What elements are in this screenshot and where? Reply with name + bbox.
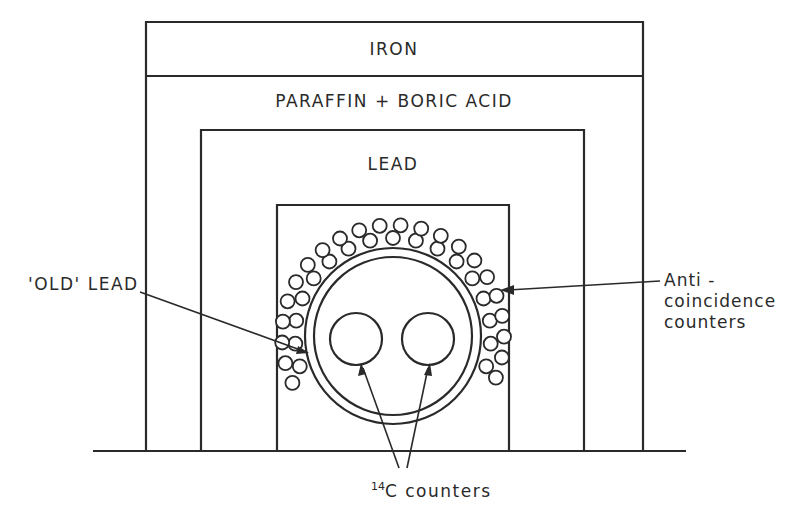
anti-coincidence-counter — [431, 242, 445, 256]
anti-line-1: Anti - — [664, 270, 776, 291]
label-c14-counters: 14C counters — [371, 481, 492, 500]
anti-coincidence-counter — [495, 351, 509, 365]
anti-coincidence-counter — [307, 271, 321, 285]
anti-coincidence-counter — [480, 270, 494, 284]
label-lead: LEAD — [368, 156, 419, 173]
anti-coincidence-counter — [479, 359, 493, 373]
old-lead-ring-inner — [314, 257, 472, 415]
anti-coincidence-counter — [296, 292, 310, 306]
anti-coincidence-counter — [467, 254, 481, 268]
lead-box — [201, 130, 584, 451]
anti-coincidence-counter — [434, 229, 448, 243]
label-iron: IRON — [370, 41, 419, 58]
anti-coincidence-counter — [477, 292, 491, 306]
shielding-diagram: IRON PARAFFIN + BORIC ACID LEAD 'OLD' LE… — [0, 0, 796, 514]
anti-coincidence-counter — [285, 376, 299, 390]
anti-coincidence-counter — [373, 219, 387, 233]
anti-coincidence-counter — [452, 240, 466, 254]
anti-coincidence-counter — [484, 337, 498, 351]
anti-coincidence-counter — [276, 315, 290, 329]
anti-coincidence-counter — [386, 231, 400, 245]
anti-line-3: counters — [664, 312, 776, 333]
diagram-canvas — [0, 0, 796, 514]
c14-leader-left — [363, 368, 399, 468]
anti-coincidence-counter — [316, 243, 330, 257]
anti-coincidence-counter — [450, 255, 464, 269]
anti-coincidence-counter — [490, 289, 504, 303]
anti-coincidence-counter — [278, 356, 292, 370]
anti-coincidence-counter — [394, 218, 408, 232]
c14-counter-left — [330, 313, 382, 365]
anti-coincidence-counter — [495, 309, 509, 323]
anti-line-2: coincidence — [664, 291, 776, 312]
label-anti-coincidence: Anti - coincidence counters — [664, 270, 776, 333]
anti-coincidence-counter — [352, 223, 366, 237]
c14-text: C counters — [385, 481, 492, 501]
anti-coincidence-counter — [301, 258, 315, 272]
anti-coincidence-counter — [414, 222, 428, 236]
anti-coincidence-counter — [497, 330, 511, 344]
anti-coincidence-counter — [289, 314, 303, 328]
anti-coincidence-counter — [489, 371, 503, 385]
c14-superscript: 14 — [371, 480, 385, 493]
anti-coincidence-counter — [363, 234, 377, 248]
anti-coincidence-counter — [275, 336, 289, 350]
anti-coincidence-counter — [289, 275, 303, 289]
anti-coincidence-counter — [293, 359, 307, 373]
anti-coincidence-counter — [333, 232, 347, 246]
c14-counter-right — [402, 313, 454, 365]
anti-coincidence-counter — [465, 271, 479, 285]
label-paraffin-boric-acid: PARAFFIN + BORIC ACID — [275, 93, 513, 110]
anti-coincidence-counter — [281, 294, 295, 308]
label-old-lead: 'OLD' LEAD — [28, 276, 139, 293]
